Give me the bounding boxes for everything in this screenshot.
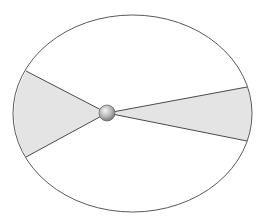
sun-icon — [99, 105, 115, 121]
right-sector — [107, 87, 252, 141]
orbit-diagram — [0, 0, 261, 222]
left-sector — [14, 71, 107, 157]
